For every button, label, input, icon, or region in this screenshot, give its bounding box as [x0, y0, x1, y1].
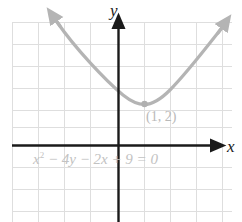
parabola-curve — [55, 19, 223, 105]
grid-lines — [12, 22, 232, 222]
vertex-point-marker — [141, 101, 147, 107]
x-axis-label: x — [227, 138, 235, 155]
graph-figure: y x (1, 2) x2 − 4y − 2x + 9 = 0 — [0, 0, 242, 222]
coordinate-plane-svg — [0, 0, 242, 222]
equation-remainder: − 4y − 2x + 9 = 0 — [44, 151, 158, 167]
equation-label: x2 − 4y − 2x + 9 = 0 — [33, 152, 158, 167]
equation-variable: x — [33, 151, 40, 167]
axes — [12, 27, 212, 222]
y-axis-label: y — [110, 2, 118, 19]
vertex-coordinate-label: (1, 2) — [146, 110, 176, 124]
